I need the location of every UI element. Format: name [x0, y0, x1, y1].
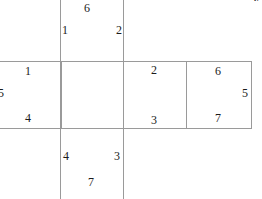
top-face [60, 0, 124, 62]
vertex-label-bottom-face-top-right: 3 [114, 150, 120, 162]
vertex-label-left-face-top-right: 1 [25, 65, 31, 77]
vertex-label-top-face-top-center: 6 [84, 2, 90, 14]
cube-net-diagram: 6 1 2 1 5 4 2 3 6 5 7 4 3 7 V [0, 0, 262, 199]
vertex-label-top-face-bottom-left: 1 [62, 24, 68, 36]
left-face [0, 61, 62, 129]
vertex-label-left-face-bottom-right: 4 [25, 112, 31, 124]
vertex-label-bottom-face-bottom-center: 7 [88, 176, 94, 188]
vertex-label-top-face-bottom-right: 2 [116, 24, 122, 36]
vertex-label-bottom-face-top-left: 4 [63, 150, 69, 162]
vertex-label-right-face-top-center: 2 [151, 64, 157, 76]
center-face [60, 61, 124, 129]
vertex-label-right-face-bottom-center: 3 [151, 114, 157, 126]
vertex-label-far-right-face-middle-right: 5 [242, 87, 248, 99]
clipped-corner-glyph: V [252, 0, 261, 1]
vertex-label-left-face-middle-left: 5 [0, 87, 4, 99]
vertex-label-far-right-face-bottom-center: 7 [215, 112, 221, 124]
vertex-label-far-right-face-top-center: 6 [215, 65, 221, 77]
